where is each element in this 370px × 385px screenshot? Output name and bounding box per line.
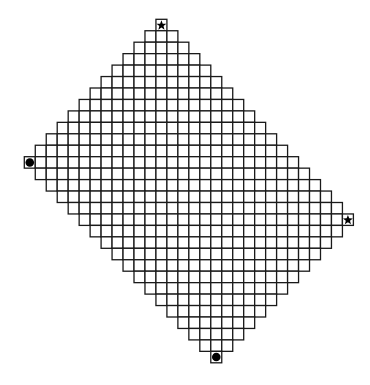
grid-cell <box>189 237 200 248</box>
grid-cell <box>167 157 178 168</box>
grid-cell <box>233 328 244 339</box>
grid-cell <box>145 31 156 42</box>
grid-cell <box>255 283 266 294</box>
grid-cell <box>101 225 112 236</box>
grid-cell <box>145 237 156 248</box>
grid-cell <box>101 111 112 122</box>
grid-cell <box>57 145 68 156</box>
grid-cell <box>57 122 68 133</box>
grid-cell <box>156 294 167 305</box>
grid-cell <box>200 306 211 317</box>
grid-cell <box>112 77 123 88</box>
grid-cell <box>244 214 255 225</box>
grid-cell <box>123 122 134 133</box>
grid-cell <box>244 203 255 214</box>
grid-cell <box>90 214 101 225</box>
grid-cell <box>244 168 255 179</box>
grid-cell <box>156 145 167 156</box>
grid-cell <box>167 294 178 305</box>
grid-cell <box>299 248 310 259</box>
grid-cell <box>112 65 123 76</box>
grid-cell <box>145 111 156 122</box>
grid-cell <box>211 294 222 305</box>
grid-cell <box>79 111 90 122</box>
grid-cell <box>233 317 244 328</box>
grid-cell <box>277 168 288 179</box>
grid-cell <box>310 248 321 259</box>
grid-cell <box>288 260 299 271</box>
grid-cell <box>134 260 145 271</box>
grid-cell <box>266 294 277 305</box>
grid-cell <box>189 122 200 133</box>
grid-cell <box>288 248 299 259</box>
grid-cell <box>200 214 211 225</box>
grid-cell <box>134 225 145 236</box>
grid-cell <box>233 157 244 168</box>
grid-cell <box>178 145 189 156</box>
grid-cell <box>200 328 211 339</box>
grid-cell <box>244 122 255 133</box>
grid-cell <box>68 191 79 202</box>
grid-cell <box>288 168 299 179</box>
grid-cell <box>255 237 266 248</box>
grid-cell <box>211 180 222 191</box>
grid-cell <box>178 122 189 133</box>
grid-cell <box>288 214 299 225</box>
grid-cell <box>156 134 167 145</box>
grid-cell <box>178 225 189 236</box>
grid-cell <box>266 283 277 294</box>
grid-cell <box>145 145 156 156</box>
grid-cell <box>35 168 46 179</box>
grid-cell <box>244 248 255 259</box>
grid-cell <box>156 111 167 122</box>
grid-cell <box>178 271 189 282</box>
grid-cell <box>178 168 189 179</box>
grid-cell <box>222 283 233 294</box>
grid-cell <box>79 122 90 133</box>
grid-cell <box>134 168 145 179</box>
grid-cell <box>35 157 46 168</box>
grid-cell <box>79 180 90 191</box>
grid-cell <box>189 134 200 145</box>
grid-cell <box>211 340 222 351</box>
grid-cell <box>79 191 90 202</box>
grid-cell <box>244 283 255 294</box>
grid-cell <box>189 111 200 122</box>
grid-cell <box>79 203 90 214</box>
grid-cell <box>79 168 90 179</box>
grid-cell <box>233 134 244 145</box>
grid-cell <box>90 168 101 179</box>
grid-cell <box>233 203 244 214</box>
grid-cell <box>123 260 134 271</box>
grid-cell <box>277 214 288 225</box>
grid-cell <box>178 283 189 294</box>
grid-cell <box>211 237 222 248</box>
grid-cell <box>112 225 123 236</box>
grid-cell <box>200 283 211 294</box>
grid-cell <box>167 122 178 133</box>
grid-cell <box>222 145 233 156</box>
grid-cell <box>123 88 134 99</box>
grid-cell <box>331 214 342 225</box>
grid-cell <box>68 180 79 191</box>
grid-cell <box>156 248 167 259</box>
grid-cell <box>200 248 211 259</box>
grid-cell <box>134 77 145 88</box>
grid-cell <box>145 271 156 282</box>
grid-cell <box>200 111 211 122</box>
grid-cell <box>123 225 134 236</box>
grid-cell <box>200 191 211 202</box>
grid-cell <box>101 157 112 168</box>
grid-cell <box>101 134 112 145</box>
grid-cell <box>112 214 123 225</box>
grid-cell <box>134 134 145 145</box>
grid-cell <box>200 203 211 214</box>
grid-cell <box>90 180 101 191</box>
grid-cell <box>288 225 299 236</box>
grid-cell <box>178 306 189 317</box>
grid-cell <box>222 168 233 179</box>
grid-cell <box>255 203 266 214</box>
grid-cell <box>145 42 156 53</box>
grid-cell <box>101 99 112 110</box>
grid-cell <box>134 271 145 282</box>
